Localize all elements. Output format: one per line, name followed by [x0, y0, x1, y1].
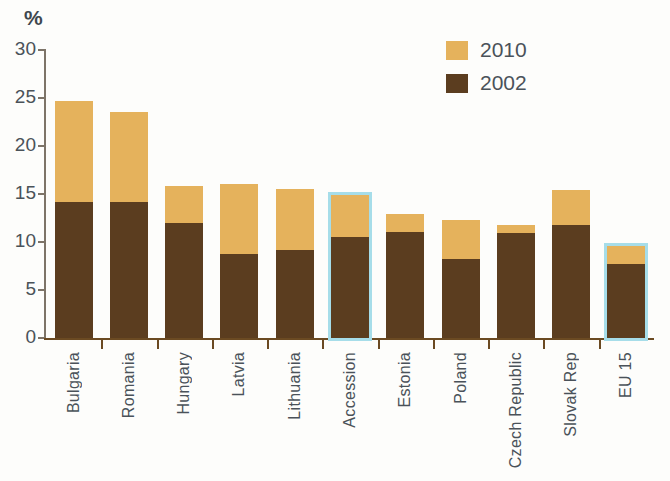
- x-axis-tick: [543, 340, 545, 349]
- legend-item-2002: 2002: [446, 71, 527, 95]
- segment-2010: [497, 225, 535, 234]
- segment-2010: [55, 101, 93, 202]
- bar-czech-republic: [497, 225, 535, 338]
- segment-2010: [110, 112, 148, 201]
- segment-2002: [220, 254, 258, 338]
- x-axis-tick: [157, 340, 159, 349]
- legend-item-2010: 2010: [446, 38, 527, 62]
- bar-chart: % 051015202530 BulgariaRomaniaHungaryLat…: [0, 0, 670, 481]
- bar-group: [110, 50, 148, 338]
- segment-2002: [442, 259, 480, 338]
- bar-estonia: [386, 214, 424, 338]
- legend-swatch-2010: [446, 41, 468, 60]
- legend: 2010 2002: [446, 38, 527, 104]
- bar-hungary: [165, 186, 203, 338]
- x-axis-line: [44, 338, 654, 340]
- segment-2002: [110, 202, 148, 338]
- y-axis-tick-label: 0: [2, 326, 36, 348]
- segment-2010: [442, 220, 480, 259]
- y-axis-tick-label: 10: [2, 230, 36, 252]
- bar-bulgaria: [55, 101, 93, 338]
- segment-2002: [165, 223, 203, 338]
- bar-group: [55, 50, 93, 338]
- x-axis-tick: [267, 340, 269, 349]
- segment-2002: [276, 250, 314, 338]
- x-axis-tick: [101, 340, 103, 349]
- bar-group: [552, 50, 590, 338]
- bar-latvia: [220, 184, 258, 338]
- x-axis-tick: [488, 340, 490, 349]
- x-axis-label-slovak-rep: Slovak Rep: [562, 352, 580, 437]
- x-axis-label-czech-republic: Czech Republic: [507, 352, 525, 468]
- segment-2002: [331, 237, 369, 338]
- y-axis-tick-label: 30: [2, 38, 36, 60]
- segment-2010: [165, 186, 203, 222]
- legend-label-2002: 2002: [480, 71, 527, 95]
- segment-2002: [497, 233, 535, 338]
- x-axis-label-hungary: Hungary: [175, 352, 193, 415]
- segment-2010: [386, 214, 424, 232]
- x-axis-label-estonia: Estonia: [396, 352, 414, 407]
- bar-romania: [110, 112, 148, 338]
- y-axis-tick: [38, 193, 46, 195]
- segment-2002: [607, 264, 645, 338]
- bar-group: [220, 50, 258, 338]
- y-axis-tick-label: 25: [2, 86, 36, 108]
- plot-area: [46, 50, 654, 338]
- x-axis-tick: [378, 340, 380, 349]
- x-axis-label-romania: Romania: [120, 352, 138, 418]
- segment-2010: [220, 184, 258, 253]
- bar-slovak-rep: [552, 190, 590, 338]
- y-axis-tick: [38, 49, 46, 51]
- x-axis-tick: [433, 340, 435, 349]
- bar-lithuania: [276, 189, 314, 338]
- segment-2010: [552, 190, 590, 225]
- y-axis-tick: [38, 97, 46, 99]
- x-axis-label-latvia: Latvia: [230, 352, 248, 397]
- bar-group: [386, 50, 424, 338]
- segment-2002: [55, 202, 93, 338]
- legend-swatch-2002: [446, 74, 468, 93]
- bar-group: [165, 50, 203, 338]
- legend-label-2010: 2010: [480, 38, 527, 62]
- x-axis-label-lithuania: Lithuania: [286, 352, 304, 420]
- y-axis-tick-labels: 051015202530: [0, 0, 36, 481]
- y-axis-tick-label: 20: [2, 134, 36, 156]
- bar-accession: [331, 195, 369, 338]
- bar-group: [607, 50, 645, 338]
- segment-2010: [331, 195, 369, 237]
- y-axis-tick: [38, 241, 46, 243]
- segment-2010: [276, 189, 314, 249]
- x-axis-label-poland: Poland: [452, 352, 470, 404]
- bar-group: [331, 50, 369, 338]
- y-axis-tick-label: 15: [2, 182, 36, 204]
- segment-2010: [607, 246, 645, 264]
- x-axis-tick: [322, 340, 324, 349]
- y-axis-tick: [38, 289, 46, 291]
- y-axis-tick-label: 5: [2, 278, 36, 300]
- x-axis-label-bulgaria: Bulgaria: [65, 352, 83, 413]
- x-axis-tick: [212, 340, 214, 349]
- x-axis-label-eu-15: EU 15: [617, 352, 635, 398]
- segment-2002: [552, 225, 590, 338]
- bar-poland: [442, 220, 480, 338]
- y-axis-tick: [38, 145, 46, 147]
- x-axis-label-accession: Accession: [341, 352, 359, 428]
- segment-2002: [386, 232, 424, 338]
- bar-eu-15: [607, 246, 645, 338]
- x-axis-tick: [599, 340, 601, 349]
- bar-group: [276, 50, 314, 338]
